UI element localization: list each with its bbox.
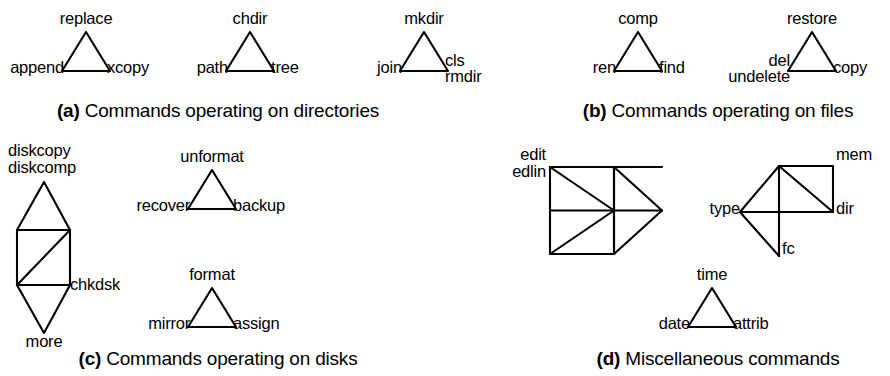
label-copy: copy (833, 59, 867, 76)
figure-root: replace append xcopy chdir path tree mkd… (0, 0, 890, 376)
caption-b-text: Commands operating on files (606, 100, 853, 121)
label-unformat: unformat (180, 148, 244, 165)
shape-c1-lower-apex (17, 285, 70, 333)
label-edlin: edlin (512, 163, 546, 180)
caption-b-marker: (b) (583, 100, 607, 121)
label-format: format (189, 266, 235, 283)
label-xcopy: xcopy (107, 59, 149, 76)
label-recover: recover (136, 197, 190, 214)
shape-d1-diag-lower-right (614, 211, 662, 255)
label-time: time (697, 266, 727, 283)
label-edit: edit (520, 146, 546, 163)
label-chkdsk: chkdsk (70, 276, 120, 293)
triangle-c3 (188, 288, 236, 327)
triangle-b1 (614, 32, 662, 71)
caption-a: (a) Commands operating on directories (57, 100, 379, 122)
shape-d1-diag-lower-left (550, 211, 614, 255)
label-path: path (197, 59, 228, 76)
triangle-c2 (188, 170, 236, 209)
triangle-a1 (62, 32, 110, 71)
caption-c: (c) Commands operating on disks (79, 348, 358, 370)
shape-d2-edge-bottom-left (740, 212, 779, 256)
shape-c1-upper-apex (17, 182, 70, 230)
shape-d1-diag-upper-right (614, 167, 662, 211)
caption-c-text: Commands operating on disks (101, 348, 357, 369)
label-backup: backup (233, 197, 285, 214)
triangle-b2 (788, 32, 836, 71)
label-rmdir: rmdir (445, 68, 482, 85)
label-chdir: chdir (233, 10, 268, 27)
caption-d-text: Miscellaneous commands (620, 348, 839, 369)
shape-c1-diagonal (17, 230, 70, 285)
triangle-a2 (226, 32, 274, 71)
label-undelete: undelete (728, 68, 790, 85)
label-restore: restore (787, 10, 837, 27)
label-more: more (26, 333, 63, 350)
caption-a-text: Commands operating on directories (80, 100, 379, 121)
label-mem: mem (836, 146, 872, 163)
label-find: find (659, 59, 685, 76)
caption-d: (d) Miscellaneous commands (597, 348, 840, 370)
shape-d2-diag-top-right (779, 166, 833, 212)
label-append: append (10, 59, 64, 76)
label-mkdir: mkdir (404, 10, 443, 27)
caption-d-marker: (d) (597, 348, 621, 369)
triangle-d3 (688, 288, 736, 327)
label-attrib: attrib (733, 315, 768, 332)
label-assign: assign (233, 315, 280, 332)
label-mirror: mirror (148, 315, 190, 332)
caption-b: (b) Commands operating on files (583, 100, 853, 122)
caption-a-marker: (a) (57, 100, 80, 121)
shape-d1-diag-upper-left (550, 167, 614, 211)
label-tree: tree (271, 59, 299, 76)
label-dir: dir (836, 200, 854, 217)
label-replace: replace (60, 10, 113, 27)
label-diskcomp: diskcomp (8, 159, 76, 176)
label-date: date (659, 315, 690, 332)
label-fc: fc (782, 240, 794, 257)
label-type: type (710, 200, 740, 217)
label-comp: comp (618, 10, 658, 27)
triangle-a3 (400, 32, 448, 71)
caption-c-marker: (c) (79, 348, 102, 369)
shape-d2-edge-top-left (740, 166, 779, 212)
label-diskcopy: diskcopy (8, 142, 71, 159)
label-ren: ren (593, 59, 616, 76)
label-join: join (377, 59, 402, 76)
